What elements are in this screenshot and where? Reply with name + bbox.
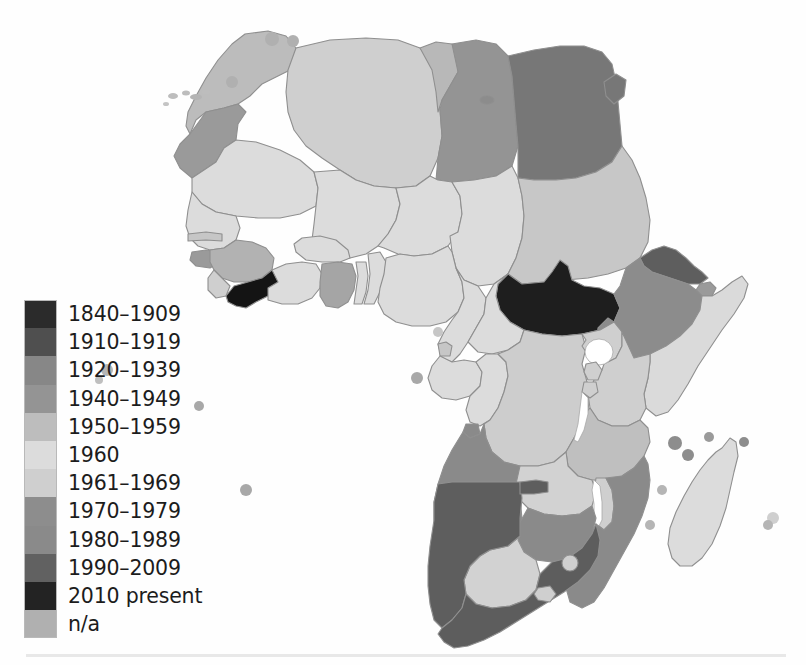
legend-item: 1961–1969 bbox=[24, 469, 244, 497]
legend-label: 1990–2009 bbox=[68, 554, 181, 582]
footer-divider bbox=[26, 654, 786, 657]
legend-swatch bbox=[24, 554, 57, 582]
independence-date-legend: 1840–1909 1910–1919 1920–1939 1940–1949 … bbox=[24, 300, 244, 638]
island-reunion bbox=[763, 520, 773, 530]
island-sao-tome bbox=[411, 372, 423, 384]
legend-swatch bbox=[24, 328, 57, 356]
island-mayotte bbox=[739, 437, 749, 447]
legend-label: 1910–1919 bbox=[68, 328, 181, 356]
legend-label: n/a bbox=[68, 610, 100, 638]
legend-item: 1940–1949 bbox=[24, 385, 244, 413]
legend-swatch bbox=[24, 497, 57, 525]
island-comoros-2 bbox=[682, 449, 694, 461]
region-ivory-coast bbox=[268, 262, 322, 304]
island-comoros-1 bbox=[668, 436, 682, 450]
legend-item: 1840–1909 bbox=[24, 300, 244, 328]
island-seychelles bbox=[657, 485, 667, 495]
legend-label: 1940–1949 bbox=[68, 385, 181, 413]
region-gambia bbox=[188, 232, 222, 241]
legend-item: 1990–2009 bbox=[24, 554, 244, 582]
legend-swatch bbox=[24, 300, 57, 328]
legend-item: n/a bbox=[24, 610, 244, 638]
legend-label: 1970–1979 bbox=[68, 497, 181, 525]
legend-swatch bbox=[24, 526, 57, 554]
region-madagascar bbox=[668, 438, 738, 566]
map-page: 1840–1909 1910–1919 1920–1939 1940–1949 … bbox=[0, 0, 806, 665]
legend-label: 2010 present bbox=[68, 582, 202, 610]
legend-item: 1980–1989 bbox=[24, 526, 244, 554]
region-canary-lg bbox=[226, 76, 238, 88]
region-melilla bbox=[287, 35, 299, 47]
legend-label: 1960 bbox=[68, 441, 119, 469]
legend-label: 1920–1939 bbox=[68, 356, 181, 384]
legend-item: 1960 bbox=[24, 441, 244, 469]
region-eswatini bbox=[562, 555, 578, 571]
region-ghana bbox=[320, 262, 356, 308]
legend-swatch bbox=[24, 385, 57, 413]
region-bioko bbox=[433, 327, 443, 337]
legend-swatch bbox=[24, 469, 57, 497]
legend-label: 1961–1969 bbox=[68, 469, 181, 497]
region-algeria bbox=[286, 38, 442, 188]
legend-item: 1970–1979 bbox=[24, 497, 244, 525]
legend-item: 1910–1919 bbox=[24, 328, 244, 356]
legend-item: 2010 present bbox=[24, 582, 244, 610]
legend-swatch bbox=[24, 610, 57, 638]
region-caprivi bbox=[520, 480, 548, 494]
legend-swatch bbox=[24, 413, 57, 441]
region-nigeria bbox=[378, 246, 464, 326]
region-egypt bbox=[508, 46, 622, 180]
legend-swatch bbox=[24, 356, 57, 384]
island-comoros-3 bbox=[704, 432, 714, 442]
legend-label: 1840–1909 bbox=[68, 300, 181, 328]
island-sw-indian bbox=[645, 520, 655, 530]
region-equatorial-guinea bbox=[438, 342, 452, 356]
legend-swatch bbox=[24, 582, 57, 610]
region-libya-inner-lake bbox=[480, 96, 494, 104]
lake-victoria bbox=[585, 339, 613, 365]
legend-label: 1950–1959 bbox=[68, 413, 181, 441]
region-ceuta bbox=[265, 32, 279, 46]
legend-label: 1980–1989 bbox=[68, 526, 181, 554]
legend-item: 1920–1939 bbox=[24, 356, 244, 384]
legend-item: 1950–1959 bbox=[24, 413, 244, 441]
legend-swatch bbox=[24, 441, 57, 469]
